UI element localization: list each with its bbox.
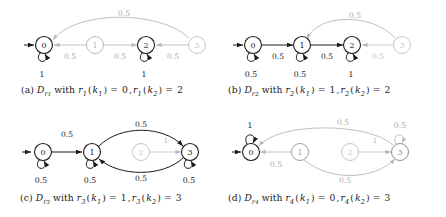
node-label-b-1: 1 (299, 41, 304, 50)
edge-label-b-3-2: 0.5 (372, 52, 384, 61)
caption-c-automaton-sub2: 3 (46, 199, 50, 205)
caption-a-arg2-sub: 2 (153, 90, 157, 98)
self-loop-label-b-1: 0.5 (294, 70, 306, 79)
caption-c-val1: 1 (121, 192, 127, 203)
edge-label-a-3-0: 0.5 (118, 9, 130, 18)
caption-b-tag: (b) (228, 84, 241, 95)
node-label-b-0: 0 (250, 41, 255, 50)
self-loop-c-1 (86, 160, 94, 168)
self-loop-label-a-0: 1 (40, 70, 45, 79)
self-loop-a-2 (140, 53, 148, 61)
caption-c-fn-sub: 3 (81, 198, 85, 206)
self-loop-label-d-3: 0.5 (394, 121, 406, 130)
edge-label-a-1-2: 0.5 (114, 52, 126, 61)
edge-label-d-1-0: 0.5 (270, 160, 282, 169)
node-label-b-2: 2 (349, 41, 354, 50)
edge-label-c-2-3: 1 (164, 136, 169, 145)
edge-label-b-0-1: 0.5 (272, 52, 284, 61)
node-label-d-2: 2 (347, 148, 352, 157)
caption-b: (b) Dr2 with r2(k1) = 1,r2(k2) = 2 (228, 84, 390, 98)
edge-label-a-3-2: 0.5 (167, 52, 179, 61)
node-label-c-3: 3 (187, 148, 192, 157)
edge-label-d-3-0: 0.5 (337, 118, 349, 127)
caption-c-with: with (53, 192, 74, 203)
caption-b-val2: 2 (384, 84, 390, 95)
caption-b-with: with (262, 84, 283, 95)
self-loop-d-3 (395, 135, 403, 144)
caption-a-with: with (54, 84, 75, 95)
caption-d: (d) Dr4 with r4(k1) = 0,r4(k2) = 3 (228, 192, 390, 206)
caption-d-automaton-sub2: 4 (255, 199, 259, 205)
self-loop-label-a-2: 1 (142, 70, 147, 79)
node-label-d-3: 3 (397, 148, 402, 157)
caption-c: (c) Dr3 with r3(k1) = 1,r3(k2) = 3 (20, 192, 182, 206)
node-label-a-2: 2 (143, 41, 148, 50)
self-loop-a-0 (38, 53, 46, 61)
caption-c-automaton: D (36, 192, 43, 203)
caption-c-val2: 3 (176, 192, 182, 203)
caption-d-tag: (d) (228, 192, 241, 203)
caption-a-automaton-sub2: 1 (48, 91, 52, 97)
node-label-c-0: 0 (40, 148, 45, 157)
self-loop-label-b-0: 0.5 (245, 70, 257, 79)
caption-c-tag: (c) (20, 192, 33, 203)
automata-figure: 0.5 0.5 0.5 0.5 1 1 0 1 2 3 (0, 0, 446, 217)
node-label-a-1: 1 (92, 41, 97, 50)
edge-label-a-1-0: 0.5 (64, 52, 76, 61)
edge-label-c-1-3: 0.5 (135, 120, 147, 129)
caption-d-with: with (262, 192, 283, 203)
node-label-d-1: 1 (297, 148, 302, 157)
caption-c-fn2-sub: 3 (136, 198, 140, 206)
edge-label-b-1-2: 0.5 (321, 52, 333, 61)
node-label-a-3: 3 (194, 41, 199, 50)
edge-label-c-3-1: 0.5 (135, 174, 147, 183)
self-loop-d-0 (246, 135, 254, 144)
self-loop-c-3 (184, 160, 192, 168)
panel-b: 0.5 0.5 0.5 0.5 0.5 0.5 1 0 1 2 (223, 0, 446, 84)
self-loop-label-c-0: 0.5 (35, 176, 47, 185)
self-loop-label-c-3: 0.5 (183, 176, 195, 185)
edge-d-1-3 (303, 159, 395, 176)
panel-c: 0.5 0.5 0.5 1 0.5 0.5 0.5 0 1 2 (0, 105, 223, 190)
caption-d-val2: 3 (384, 192, 390, 203)
node-label-c-1: 1 (89, 148, 94, 157)
edge-a-3-0 (53, 17, 189, 40)
node-label-d-0: 0 (248, 148, 253, 157)
node-label-c-2: 2 (138, 148, 143, 157)
self-loop-b-2 (346, 53, 354, 61)
self-loop-label-d-0: 1 (248, 121, 253, 130)
edge-label-c-0-1: 0.5 (61, 130, 73, 139)
self-loop-b-1 (296, 53, 304, 61)
node-label-a-0: 0 (41, 41, 46, 50)
edge-label-b-3-1: 0.5 (349, 11, 361, 20)
caption-d-automaton: D (244, 192, 251, 203)
self-loop-label-b-2: 1 (349, 70, 354, 79)
caption-b-automaton-sub2: 2 (255, 91, 259, 97)
caption-a-val2: 2 (177, 84, 183, 95)
self-loop-c-0 (37, 160, 45, 168)
caption-a-arg1-sub: 1 (98, 90, 102, 98)
node-label-b-3: 3 (399, 41, 404, 50)
edge-label-d-1-3: 0.5 (339, 176, 351, 185)
edge-label-d-2-3: 1 (373, 136, 378, 145)
self-loop-label-c-1: 0.5 (84, 176, 96, 185)
self-loop-b-0 (247, 53, 255, 61)
caption-b-automaton: D (244, 84, 251, 95)
panel-d: 0.5 0.5 0.5 1 1 0.5 0 1 2 3 (223, 105, 446, 190)
caption-a-tag: (a) (21, 84, 34, 95)
caption-a: (a) Dr1 with r1(k1) = 0,r1(k2) = 2 (21, 84, 183, 98)
panel-a: 0.5 0.5 0.5 0.5 1 1 0 1 2 3 (0, 0, 223, 84)
